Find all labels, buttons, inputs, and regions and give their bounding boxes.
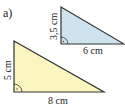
yellow-base-label: 8 cm	[48, 95, 68, 106]
yellow-height-label: 5 cm	[2, 60, 13, 80]
exercise-label: a)	[3, 6, 12, 20]
blue-triangle: 3,5 cm 6 cm	[48, 7, 124, 56]
blue-base-label: 6 cm	[83, 45, 103, 56]
blue-height-label: 3,5 cm	[48, 13, 59, 40]
figure: a) 3,5 cm 6 cm 5 cm 8 cm	[0, 0, 125, 110]
